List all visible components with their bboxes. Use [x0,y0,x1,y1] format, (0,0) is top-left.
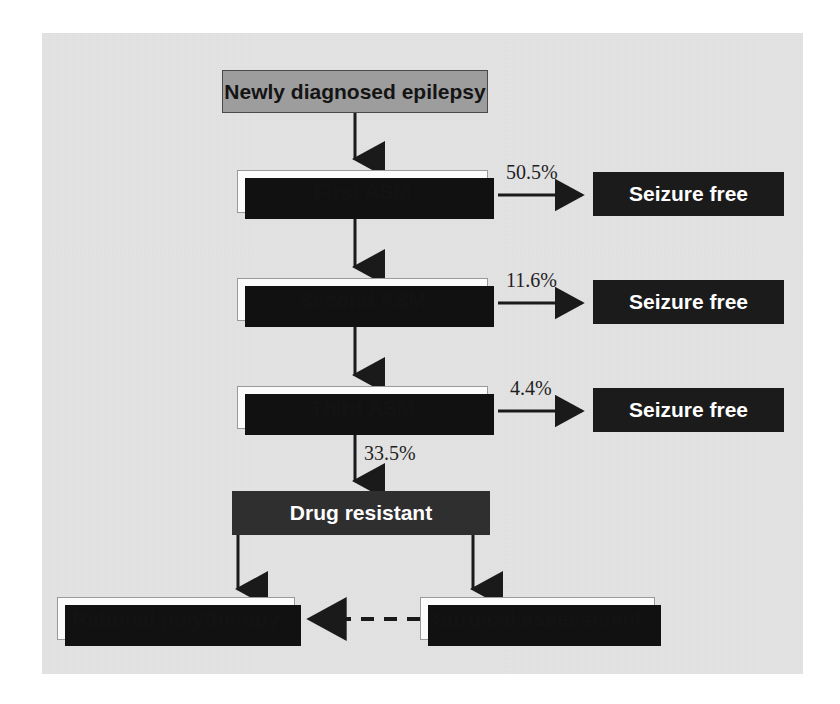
node-drug-resistant[interactable]: Drug resistant [232,491,490,535]
node-label: Seizure free [629,398,748,421]
node-label: Seizure free [629,290,748,313]
node-label: Seizure free [629,182,748,205]
node-seizure-free-first[interactable]: Seizure free [593,172,784,216]
node-label: Surgical assessment [433,607,642,630]
diagram-panel: Newly diagnosed epilepsy First ASM Secon… [42,33,803,674]
node-surgical-assessment[interactable]: Surgical assessment [420,597,655,640]
node-newly-diagnosed-epilepsy[interactable]: Newly diagnosed epilepsy [222,70,488,113]
node-label: Newly diagnosed epilepsy [224,80,485,103]
node-label: Second ASM [299,288,427,311]
edge-label-second-to-seizure-free: 11.6% [506,269,557,292]
node-first-asm[interactable]: First ASM [237,170,488,213]
node-seizure-free-second[interactable]: Seizure free [593,280,784,324]
edge-label-third-to-drug-resistant: 33.5% [364,442,416,465]
node-second-asm[interactable]: Second ASM [237,278,488,321]
node-label: Rational polytherapy [72,607,280,630]
node-third-asm[interactable]: Third ASM [237,386,488,429]
edge-label-third-to-seizure-free: 4.4% [510,377,552,400]
node-label: Third ASM [310,396,414,419]
node-seizure-free-third[interactable]: Seizure free [593,388,784,432]
node-rational-polytherapy[interactable]: Rational polytherapy [57,597,295,640]
node-label: First ASM [314,180,411,203]
edge-label-first-to-seizure-free: 50.5% [506,161,558,184]
connector-layer [42,33,803,674]
node-label: Drug resistant [290,501,432,524]
